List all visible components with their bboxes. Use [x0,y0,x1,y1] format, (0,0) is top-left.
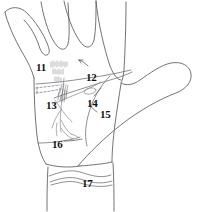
hand-diagram-figure: 11 12 13 14 15 16 17 [0,0,199,212]
thenar-border [112,84,121,162]
wrist-crease-upper [49,171,111,177]
wrist-left-edge [47,167,48,211]
label-12: 12 [86,72,97,83]
nerve-branch-b [61,120,71,134]
retinaculum-dashed-upper [36,85,60,88]
label-13: 13 [46,100,57,111]
label-14: 14 [87,98,98,109]
nerve-branch-d [56,123,57,136]
label-17: 17 [82,178,93,189]
palm-base-left [46,164,80,167]
ring-finger-outline [41,2,69,49]
hatch-line [60,84,62,93]
index-finger-inner-edge [121,2,126,83]
palm-base-right [80,162,112,166]
ovoid-structure-marker [84,87,97,95]
label-15: 15 [100,109,111,120]
label-11: 11 [36,62,46,73]
retinaculum-dashed-group [36,85,61,94]
retinaculum-dashed-lower [36,89,61,93]
index-finger-outline [96,1,121,80]
hand-outline-drawing [0,0,199,212]
distal-palmar-crease [36,70,131,84]
hand-radial-border-lower [34,78,46,164]
wrist-crease-group [49,171,112,187]
hand-ulnar-border [5,12,34,78]
wrist-right-edge [113,163,114,211]
label-16: 16 [52,139,63,150]
nerve-branch-e [71,134,79,138]
finger-outlines [5,1,191,211]
wrist-crease-middle [50,178,112,183]
leader-12 [79,60,88,66]
handwritten-annotation-scribble [51,61,67,82]
crossing-line-down [55,100,72,122]
